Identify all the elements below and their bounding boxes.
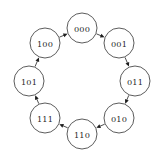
node-label: 010 (111, 114, 127, 124)
edge-line (125, 57, 128, 63)
edge-010-to-110 (96, 124, 104, 128)
graph-canvas: 000001011010110111101100 (0, 0, 164, 163)
node-label: 101 (21, 77, 37, 87)
nodes-layer: 000001011010110111101100 (14, 13, 150, 149)
node-010[interactable]: 010 (104, 103, 134, 133)
gray-code-cycle-diagram: 000001011010110111101100 (0, 0, 164, 163)
node-000[interactable]: 000 (67, 13, 97, 43)
edge-110-to-111 (59, 124, 67, 128)
node-label: 100 (37, 39, 53, 49)
node-100[interactable]: 100 (30, 28, 60, 58)
node-label: 000 (74, 24, 90, 34)
node-label: 111 (37, 114, 53, 124)
node-001[interactable]: 001 (104, 28, 134, 58)
node-label: 110 (74, 130, 90, 140)
edge-000-to-001 (96, 34, 104, 38)
node-011[interactable]: 011 (120, 66, 150, 96)
edge-line (35, 60, 38, 66)
edge-101-to-100 (35, 57, 39, 66)
edge-111-to-101 (35, 95, 39, 103)
node-101[interactable]: 101 (14, 66, 44, 96)
edge-011-to-010 (125, 95, 129, 103)
node-label: 011 (127, 77, 143, 87)
node-label: 001 (111, 39, 127, 49)
node-111[interactable]: 111 (30, 103, 60, 133)
edge-001-to-011 (125, 57, 129, 66)
node-110[interactable]: 110 (67, 119, 97, 149)
edge-100-to-000 (59, 34, 67, 38)
